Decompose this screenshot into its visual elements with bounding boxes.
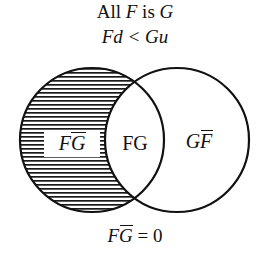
caption-fgbar-equals-zero: FG = 0 — [0, 226, 270, 245]
bottom-term-g-overbar: G — [119, 226, 133, 245]
venn-svg — [0, 0, 270, 259]
region-label-g-not-f: GF — [172, 131, 226, 151]
region-label-f-overbar: F — [200, 131, 212, 151]
region-label-g-base: G — [186, 130, 200, 152]
region-label-fg-intersection: FG — [112, 133, 158, 153]
bottom-operator: = — [138, 225, 149, 246]
region-f-not-g-hatching — [0, 0, 270, 259]
region-label-f-base: F — [59, 132, 71, 154]
region-label-f-not-g: FG — [44, 130, 100, 157]
bottom-value: 0 — [153, 225, 163, 246]
region-label-g-overbar: G — [71, 133, 85, 153]
bottom-term-f: F — [107, 225, 119, 246]
venn-diagram-figure: All F is G Fd < Gu — [0, 0, 270, 259]
